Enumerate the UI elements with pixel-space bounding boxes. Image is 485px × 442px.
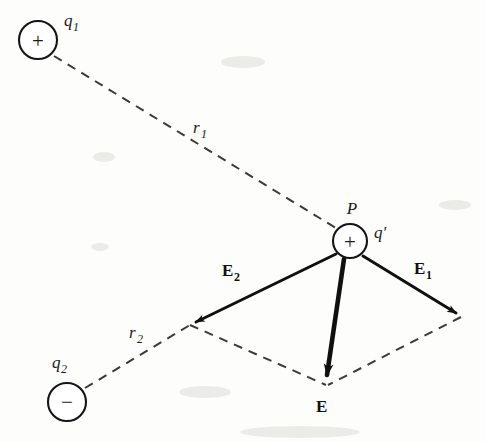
vector-label-E: E bbox=[316, 397, 327, 416]
charge-label-q2: q bbox=[52, 353, 61, 372]
point-label-P: P bbox=[346, 199, 357, 218]
vector-label-E2-subscript: 2 bbox=[234, 270, 240, 284]
vector-arrow-E bbox=[327, 259, 344, 375]
distance-lines bbox=[54, 56, 336, 388]
vector-arrow-E2 bbox=[196, 254, 336, 322]
charge-q-prime: + q′ P bbox=[333, 199, 387, 258]
distance-label-r2: r bbox=[129, 323, 136, 342]
charge-sign-plus-q-prime: + bbox=[344, 230, 356, 254]
charge-label-q2-subscript: 2 bbox=[61, 362, 67, 376]
vector-label-E1: E bbox=[414, 259, 425, 278]
parallelogram-edge-right bbox=[328, 317, 461, 385]
charge-label-q1-subscript: 1 bbox=[73, 20, 79, 34]
charge-q1: + q 1 bbox=[19, 11, 79, 59]
distance-labels: r 1 r 2 bbox=[129, 118, 207, 346]
charge-q2: − q 2 bbox=[48, 353, 86, 421]
charge-label-q1: q bbox=[64, 11, 73, 30]
charge-sign-minus-q2: − bbox=[61, 390, 73, 414]
physics-diagram: + q 1 − q 2 + q′ P r 1 r 2 E 1 bbox=[0, 0, 485, 442]
distance-label-r1-subscript: 1 bbox=[201, 127, 207, 141]
vector-label-E1-subscript: 1 bbox=[426, 268, 432, 282]
charge-label-q-prime: q′ bbox=[374, 223, 387, 242]
distance-line-r1 bbox=[54, 56, 336, 228]
vector-arrow-E1 bbox=[363, 256, 456, 313]
parallelogram-edge-left bbox=[190, 325, 326, 385]
paper-texture bbox=[91, 56, 471, 438]
diagram-canvas: + q 1 − q 2 + q′ P r 1 r 2 E 1 bbox=[0, 0, 485, 442]
vector-label-E2: E bbox=[222, 261, 233, 280]
vector-labels: E 1 E 2 E bbox=[222, 259, 432, 416]
charge-sign-plus-q1: + bbox=[32, 29, 44, 53]
distance-label-r1: r bbox=[193, 118, 200, 137]
distance-label-r2-subscript: 2 bbox=[137, 332, 143, 346]
